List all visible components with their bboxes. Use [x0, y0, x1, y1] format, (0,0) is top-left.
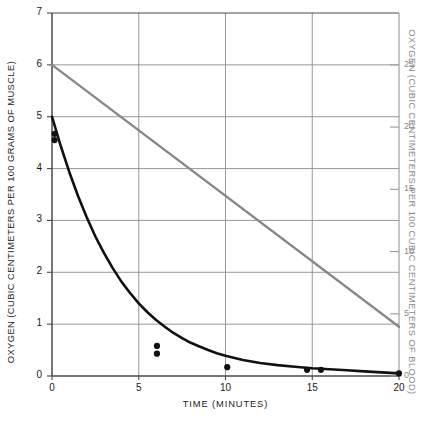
left-tick-label: 1	[26, 317, 42, 328]
data-point	[154, 351, 160, 357]
right-tick-label: 5	[404, 308, 424, 318]
bottom-tick-label: 10	[216, 382, 236, 393]
chart-figure: OXYGEN (CUBIC CENTIMETERS PER 100 GRAMS …	[0, 0, 445, 424]
left-tick-label: 5	[26, 110, 42, 121]
left-tick-label: 2	[26, 265, 42, 276]
bottom-tick-label: 20	[389, 382, 409, 393]
data-point	[304, 367, 310, 373]
right-tick-label: 10	[404, 246, 424, 256]
data-point	[52, 137, 58, 143]
plot-canvas	[0, 0, 445, 424]
left-axis-title: OXYGEN (CUBIC CENTIMETERS PER 100 GRAMS …	[0, 0, 22, 424]
right-tick-label: 25	[404, 59, 424, 69]
data-point	[224, 364, 230, 370]
bottom-tick-label: 5	[129, 382, 149, 393]
bottom-axis-title: TIME (MINUTES)	[52, 399, 399, 409]
data-point	[154, 343, 160, 349]
data-point	[318, 367, 324, 373]
data-point	[52, 131, 58, 137]
left-tick-label: 3	[26, 213, 42, 224]
bottom-tick-label: 15	[302, 382, 322, 393]
bottom-tick-label: 0	[42, 382, 62, 393]
left-tick-label: 7	[26, 6, 42, 17]
left-tick-label: 6	[26, 58, 42, 69]
right-tick-label: 15	[404, 183, 424, 193]
left-tick-label: 4	[26, 162, 42, 173]
right-tick-label: 20	[404, 121, 424, 131]
right-tick-label: 0	[404, 370, 424, 380]
left-tick-label: 0	[26, 369, 42, 380]
